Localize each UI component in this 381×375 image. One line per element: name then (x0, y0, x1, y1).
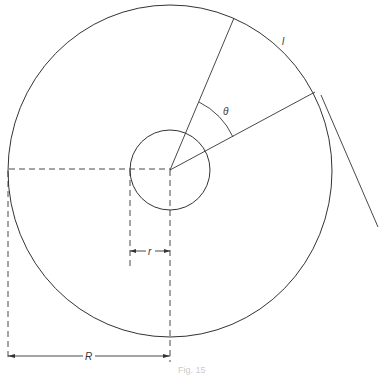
outer-radius-label: R (85, 351, 92, 362)
radius-line-upper (170, 18, 234, 170)
figure-caption: Fig. 15 (178, 365, 206, 375)
tangent-line (321, 95, 378, 227)
diagram-canvas: l θ r R Fig. 15 (0, 0, 381, 375)
arc-length-label: l (282, 36, 285, 47)
radius-line-lower (170, 92, 315, 170)
inner-radius-label: r (148, 246, 152, 257)
angle-label: θ (223, 106, 229, 117)
